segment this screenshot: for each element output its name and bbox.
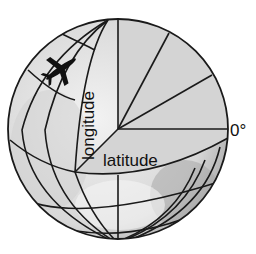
globe-diagram: longitude latitude 0° xyxy=(0,0,256,254)
longitude-label: longitude xyxy=(79,91,98,160)
globe-svg: longitude latitude 0° xyxy=(0,0,256,254)
latitude-label: latitude xyxy=(103,151,158,170)
zero-degree-label: 0° xyxy=(230,121,246,140)
